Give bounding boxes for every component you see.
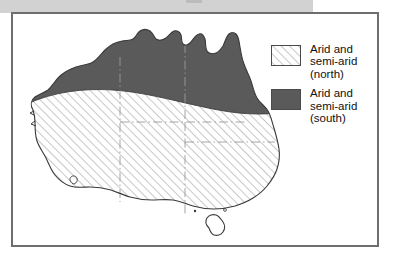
island-dot-a	[194, 210, 196, 212]
scan-banner-notch	[186, 0, 202, 3]
map-legend: Arid and semi-arid (north) Arid and semi…	[271, 43, 381, 131]
legend-item-south[interactable]: Arid and semi-arid (south)	[271, 87, 381, 124]
figure-frame: Arid and semi-arid (north) Arid and semi…	[11, 12, 379, 247]
tasmania-outline	[206, 215, 225, 236]
legend-item-north[interactable]: Arid and semi-arid (north)	[271, 43, 381, 80]
hatch-swatch	[271, 45, 301, 66]
legend-label-north: Arid and semi-arid (north)	[310, 43, 357, 80]
solid-swatch	[271, 89, 301, 110]
legend-label-south: Arid and semi-arid (south)	[310, 87, 357, 124]
island-dot-b	[224, 209, 227, 212]
figure-content: Arid and semi-arid (north) Arid and semi…	[13, 14, 377, 245]
